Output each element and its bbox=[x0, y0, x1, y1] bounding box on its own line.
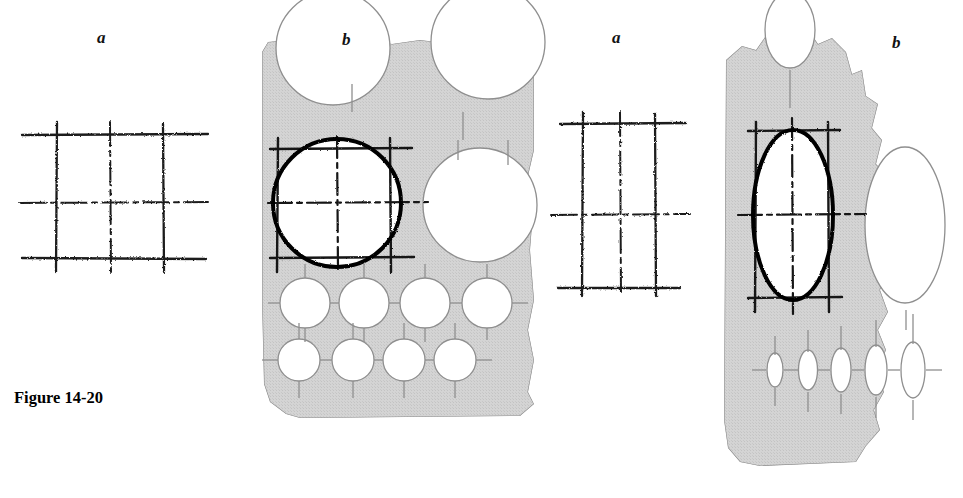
panel-label-b-circle: b bbox=[342, 30, 351, 50]
sketch-square-layout bbox=[20, 122, 208, 272]
circle-template bbox=[250, 0, 550, 430]
panel-label-b-ellipse: b bbox=[892, 33, 901, 53]
illustration bbox=[0, 0, 963, 498]
figure-caption: Figure 14-20 bbox=[14, 388, 103, 408]
ellipse-template bbox=[715, 0, 945, 480]
panel-label-a-ellipse: a bbox=[612, 28, 621, 48]
panel-label-a-circle: a bbox=[97, 28, 106, 48]
figure-canvas: a b a b Figure 14-20 bbox=[0, 0, 963, 498]
sketch-rect-layout bbox=[551, 112, 690, 296]
